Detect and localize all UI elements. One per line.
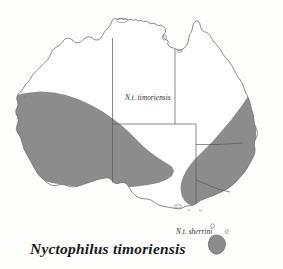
distribution-map-figure: N.t. timoriensis N.t. sherrini Nyctophil… [0, 0, 283, 269]
subspecies-label-timoriensis: N.t. timoriensis [125, 94, 171, 102]
australia-map [0, 0, 283, 269]
subspecies-label-sherrini: N.t. sherrini [176, 228, 212, 236]
figure-caption: Nyctophilus timoriensis [30, 240, 186, 258]
flinders-island-icon [225, 230, 228, 234]
southeast-coast-detail [188, 210, 202, 212]
